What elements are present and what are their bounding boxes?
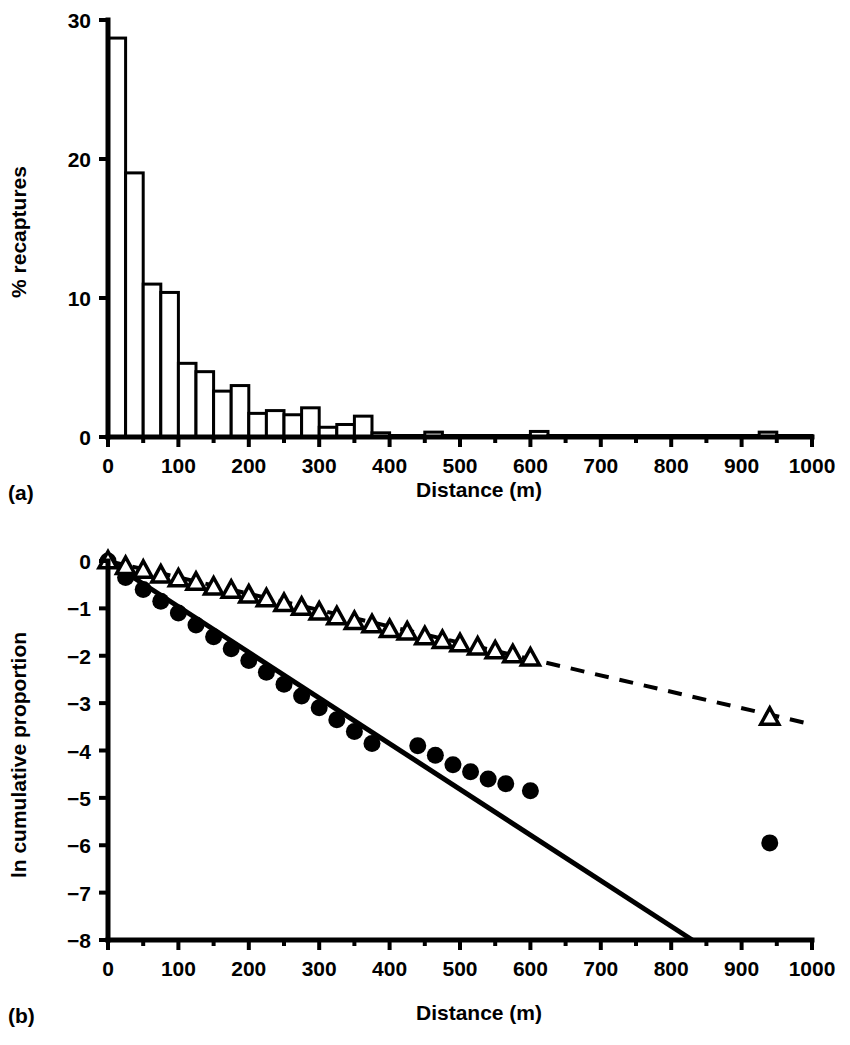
y-tick-label: 0 (79, 426, 91, 449)
x-tick-label: 300 (302, 454, 337, 477)
x-tick-label: 100 (161, 957, 196, 980)
y-tick-label: −1 (67, 597, 91, 620)
panel-b-scatter: 01002003004005006007008009001000 0−1−2−3… (0, 520, 850, 1045)
data-point-filled-circle (152, 593, 169, 610)
data-point-filled-circle (522, 782, 539, 799)
panel-b-label: (b) (8, 1004, 35, 1027)
data-point-filled-circle (276, 676, 293, 693)
data-point-open-triangle (310, 603, 328, 619)
x-tick-label: 800 (654, 957, 689, 980)
x-tick-label: 900 (724, 957, 759, 980)
data-point-filled-circle (346, 723, 363, 740)
panel-b-svg: 01002003004005006007008009001000 0−1−2−3… (0, 520, 850, 1045)
panel-b-axes (108, 561, 812, 940)
panel-a-x-tick-labels: 01002003004005006007008009001000 (102, 454, 835, 477)
panel-a-x-axis-title: Distance (m) (416, 478, 542, 501)
panel-b-x-axis-title: Distance (m) (416, 1001, 542, 1024)
data-point-open-triangle (504, 645, 522, 661)
x-tick-label: 300 (302, 957, 337, 980)
histogram-bar (249, 413, 267, 437)
x-tick-label: 200 (231, 957, 266, 980)
panel-a-label: (a) (8, 481, 34, 504)
y-tick-label: −6 (67, 834, 91, 857)
y-tick-label: −8 (67, 929, 91, 952)
y-tick-label: −7 (67, 882, 91, 905)
data-point-filled-circle (444, 756, 461, 773)
x-tick-label: 400 (372, 454, 407, 477)
data-point-open-triangle (381, 620, 399, 636)
data-point-filled-circle (427, 747, 444, 764)
y-tick-label: −4 (67, 740, 91, 763)
data-point-open-triangle (363, 615, 381, 631)
x-tick-label: 700 (583, 957, 618, 980)
data-point-filled-circle (761, 834, 778, 851)
x-tick-label: 0 (102, 454, 114, 477)
data-point-open-triangle (328, 607, 346, 623)
y-tick-label: 20 (68, 148, 91, 171)
data-point-open-triangle (433, 631, 451, 647)
data-point-open-triangle (205, 578, 223, 594)
x-tick-label: 600 (513, 957, 548, 980)
data-point-filled-circle (311, 699, 328, 716)
data-point-open-triangle (521, 649, 539, 665)
data-point-filled-circle (258, 664, 275, 681)
y-tick-label: −2 (67, 645, 91, 668)
y-tick-label: 0 (79, 550, 91, 573)
x-tick-label: 0 (102, 957, 114, 980)
histogram-bar (302, 408, 320, 437)
data-point-open-triangle (345, 612, 363, 628)
data-point-open-triangle (293, 598, 311, 614)
data-point-open-triangle (275, 594, 293, 610)
panel-a-histogram: 01002003004005006007008009001000 0102030… (0, 0, 850, 520)
panel-a-y-tick-labels: 0102030 (68, 9, 91, 449)
x-tick-label: 1000 (789, 454, 836, 477)
data-point-filled-circle (223, 640, 240, 657)
data-point-filled-circle (462, 763, 479, 780)
data-point-open-triangle (416, 627, 434, 643)
data-point-open-triangle (469, 638, 487, 654)
histogram-bar (126, 173, 144, 437)
y-tick-label: −3 (67, 692, 91, 715)
panel-b-ticks (99, 561, 812, 950)
x-tick-label: 700 (583, 454, 618, 477)
data-point-filled-circle (170, 605, 187, 622)
panel-a-y-axis-title: % recaptures (7, 166, 30, 298)
data-point-open-triangle (451, 634, 469, 650)
x-tick-label: 200 (231, 454, 266, 477)
regression-lines (108, 561, 812, 940)
data-point-open-triangle (117, 557, 135, 573)
x-tick-label: 800 (654, 454, 689, 477)
data-point-open-triangle (240, 586, 258, 602)
data-point-open-triangle (398, 623, 416, 639)
histogram-bar (108, 38, 126, 437)
figure-container: 01002003004005006007008009001000 0102030… (0, 0, 850, 1045)
data-point-filled-circle (293, 688, 310, 705)
data-point-filled-circle (205, 628, 222, 645)
histogram-bar (231, 386, 249, 437)
data-point-filled-circle (409, 737, 426, 754)
x-tick-label: 400 (372, 957, 407, 980)
data-point-filled-circle (480, 770, 497, 787)
data-point-filled-circle (240, 652, 257, 669)
x-tick-label: 500 (442, 957, 477, 980)
histogram-bars (108, 38, 812, 437)
y-tick-label: 10 (68, 287, 91, 310)
panel-b-x-tick-labels: 01002003004005006007008009001000 (102, 957, 835, 980)
data-point-open-triangle (257, 589, 275, 605)
x-tick-label: 600 (513, 454, 548, 477)
x-tick-label: 900 (724, 454, 759, 477)
data-point-open-triangle (134, 561, 152, 577)
x-tick-label: 1000 (789, 957, 836, 980)
panel-a-svg: 01002003004005006007008009001000 0102030… (0, 0, 850, 520)
histogram-bar (161, 292, 179, 437)
data-point-filled-circle (328, 711, 345, 728)
x-tick-label: 100 (161, 454, 196, 477)
data-point-open-triangle (187, 573, 205, 589)
panel-b-y-tick-labels: 0−1−2−3−4−5−6−7−8 (67, 550, 91, 952)
data-point-open-triangle (222, 581, 240, 597)
histogram-bar (214, 391, 232, 437)
histogram-bar (143, 284, 161, 437)
scatter-points (99, 552, 779, 852)
y-tick-label: 30 (68, 9, 91, 32)
panel-b-y-axis-title: ln cumulative proportion (7, 632, 30, 878)
